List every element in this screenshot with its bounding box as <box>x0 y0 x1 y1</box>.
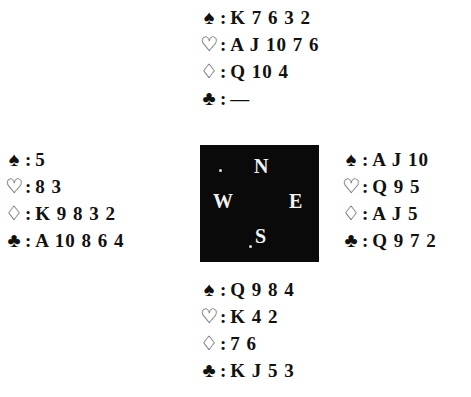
south-clubs: K J 5 3 <box>230 360 295 381</box>
spade-icon: ♠ <box>199 4 219 31</box>
north-diamonds-row: ♢:Q 10 4 <box>199 58 320 85</box>
west-spades-row: ♠:5 <box>4 146 125 173</box>
speck <box>249 245 252 248</box>
east-clubs: Q 9 7 2 <box>372 230 437 251</box>
spade-icon: ♠ <box>341 146 361 173</box>
south-clubs-row: ♣:K J 5 3 <box>199 357 295 384</box>
north-diamonds: Q 10 4 <box>230 61 289 82</box>
south-hand: ♠:Q 9 8 4 ♡:K 4 2 ♢:7 6 ♣:K J 5 3 <box>199 276 295 384</box>
east-hand: ♠:A J 10 ♡:Q 9 5 ♢:A J 5 ♣:Q 9 7 2 <box>341 146 437 254</box>
east-diamonds: A J 5 <box>372 203 418 224</box>
east-diamonds-row: ♢:A J 5 <box>341 200 437 227</box>
south-spades: Q 9 8 4 <box>230 279 295 300</box>
north-clubs: — <box>230 88 250 109</box>
compass-box: N W E S <box>200 145 319 262</box>
east-spades: A J 10 <box>372 149 429 170</box>
club-icon: ♣ <box>341 227 361 254</box>
west-clubs-row: ♣:A 10 8 6 4 <box>4 227 125 254</box>
heart-icon: ♡ <box>199 303 219 330</box>
south-diamonds-row: ♢:7 6 <box>199 330 295 357</box>
compass-south: S <box>255 225 266 248</box>
east-spades-row: ♠:A J 10 <box>341 146 437 173</box>
south-spades-row: ♠:Q 9 8 4 <box>199 276 295 303</box>
diamond-icon: ♢ <box>199 330 219 357</box>
north-hearts-row: ♡:A J 10 7 6 <box>199 31 320 58</box>
west-diamonds: K 9 8 3 2 <box>35 203 116 224</box>
north-clubs-row: ♣:— <box>199 85 320 112</box>
north-spades: K 7 6 3 2 <box>230 7 311 28</box>
compass-east: E <box>289 190 302 213</box>
west-clubs: A 10 8 6 4 <box>35 230 124 251</box>
south-hearts: K 4 2 <box>230 306 278 327</box>
west-hearts: 8 3 <box>35 176 62 197</box>
heart-icon: ♡ <box>4 173 24 200</box>
west-spades: 5 <box>35 149 46 170</box>
east-hearts: Q 9 5 <box>372 176 420 197</box>
club-icon: ♣ <box>4 227 24 254</box>
north-spades-row: ♠:K 7 6 3 2 <box>199 4 320 31</box>
spade-icon: ♠ <box>4 146 24 173</box>
east-hearts-row: ♡:Q 9 5 <box>341 173 437 200</box>
heart-icon: ♡ <box>199 31 219 58</box>
diamond-icon: ♢ <box>341 200 361 227</box>
south-hearts-row: ♡:K 4 2 <box>199 303 295 330</box>
heart-icon: ♡ <box>341 173 361 200</box>
east-clubs-row: ♣:Q 9 7 2 <box>341 227 437 254</box>
west-hand: ♠:5 ♡:8 3 ♢:K 9 8 3 2 ♣:A 10 8 6 4 <box>4 146 125 254</box>
west-diamonds-row: ♢:K 9 8 3 2 <box>4 200 125 227</box>
spade-icon: ♠ <box>199 276 219 303</box>
speck <box>219 169 222 172</box>
compass-west: W <box>213 190 233 213</box>
diamond-icon: ♢ <box>199 58 219 85</box>
club-icon: ♣ <box>199 357 219 384</box>
south-diamonds: 7 6 <box>230 333 257 354</box>
north-hand: ♠:K 7 6 3 2 ♡:A J 10 7 6 ♢:Q 10 4 ♣:— <box>199 4 320 112</box>
diamond-icon: ♢ <box>4 200 24 227</box>
west-hearts-row: ♡:8 3 <box>4 173 125 200</box>
club-icon: ♣ <box>199 85 219 112</box>
north-hearts: A J 10 7 6 <box>230 34 319 55</box>
compass-north: N <box>254 155 268 178</box>
